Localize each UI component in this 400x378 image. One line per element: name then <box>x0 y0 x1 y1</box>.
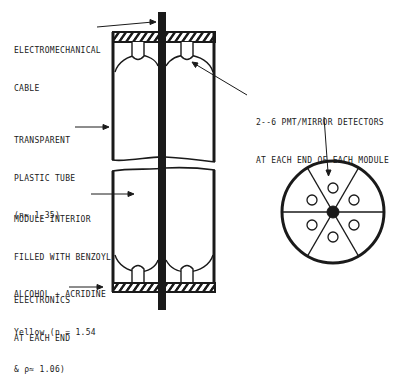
arrow-head-icon <box>103 125 109 130</box>
arrow-head-icon <box>128 192 134 197</box>
center-cable-icon <box>327 206 339 218</box>
label-cable: Electromechanical Cable <box>14 20 101 108</box>
pmt-top-left <box>132 42 144 60</box>
label-detectors: 2--6 PMT/Mirror Detectors at Each End of… <box>256 92 389 180</box>
label-line: Transparent <box>14 135 75 148</box>
label-line: Electronics <box>14 295 70 308</box>
label-electronics: Electronics at Each End <box>14 270 70 358</box>
label-line: Cable <box>14 83 101 96</box>
label-line: & ρ≈ 1.06) <box>14 364 111 377</box>
label-line: at Each End of Each Module <box>256 155 389 168</box>
label-line: Module Interior <box>14 214 111 227</box>
arrow-head-icon <box>192 62 198 68</box>
label-line: Plastic Tube <box>14 173 75 186</box>
pmt-top-right <box>181 42 193 60</box>
pmt-bottom-left <box>132 266 144 284</box>
label-line: at Each End <box>14 333 70 346</box>
arrow-head-icon <box>150 20 156 25</box>
label-line: Electromechanical <box>14 45 101 58</box>
label-line: Filled With Benzoyl <box>14 252 111 265</box>
pmt-bottom-right <box>181 266 193 284</box>
label-line: 2--6 PMT/Mirror Detectors <box>256 117 389 130</box>
